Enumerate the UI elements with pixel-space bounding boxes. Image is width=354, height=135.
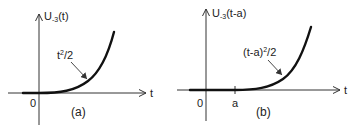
caption-a: (a) xyxy=(71,105,86,119)
tick-label-a: a xyxy=(232,97,239,109)
unit-ramp-diagram: U-3(t) t 0 t2/2 (a) U-3(t-a) t 0 a xyxy=(0,0,354,135)
curve-label-a: t2/2 xyxy=(57,49,73,61)
pointer-arrow-a xyxy=(71,62,87,79)
curve-b xyxy=(190,27,311,90)
curve-label-b: (t-a)2/2 xyxy=(243,46,276,58)
curve-a xyxy=(23,32,114,93)
pointer-arrow-b xyxy=(268,60,282,75)
y-axis-label-b: U-3(t-a) xyxy=(212,7,246,20)
t-axis-label-b: t xyxy=(344,84,347,96)
caption-b: (b) xyxy=(256,105,271,119)
origin-label-b: 0 xyxy=(197,97,203,109)
panel-b: U-3(t-a) t 0 a (t-a)2/2 (b) xyxy=(177,7,347,121)
origin-label-a: 0 xyxy=(30,97,36,109)
y-axis-label-a: U-3(t) xyxy=(44,10,69,23)
t-axis-label-a: t xyxy=(150,87,153,99)
panel-a: U-3(t) t 0 t2/2 (a) xyxy=(8,10,153,125)
